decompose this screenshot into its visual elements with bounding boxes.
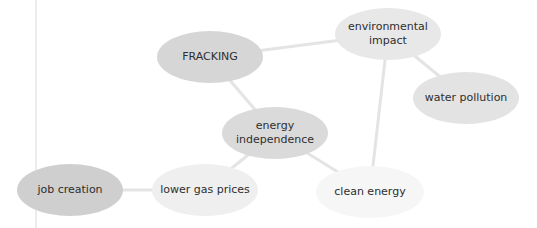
node-fracking[interactable]: FRACKING: [157, 31, 263, 83]
node-label: lower gas prices: [160, 183, 250, 197]
node-environmental-impact[interactable]: environmental impact: [335, 8, 441, 60]
node-label: water pollution: [425, 91, 508, 105]
node-lower-gas-prices[interactable]: lower gas prices: [152, 164, 258, 216]
node-job-creation[interactable]: job creation: [17, 164, 123, 216]
node-clean-energy[interactable]: clean energy: [316, 166, 424, 218]
node-energy-independence[interactable]: energy independence: [222, 107, 328, 159]
node-label: environmental impact: [343, 20, 433, 48]
node-water-pollution[interactable]: water pollution: [413, 72, 519, 124]
node-label: clean energy: [334, 185, 405, 199]
node-label: energy independence: [230, 119, 320, 147]
node-label: FRACKING: [182, 50, 238, 64]
node-label: job creation: [37, 183, 102, 197]
concept-map-canvas: FRACKINGenvironmental impactwater pollut…: [0, 0, 537, 228]
